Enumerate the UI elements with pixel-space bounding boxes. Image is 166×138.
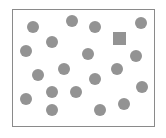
circle-shape	[66, 15, 78, 27]
circle-shape	[136, 81, 148, 93]
circle-shape	[58, 63, 70, 75]
circle-shape	[70, 86, 82, 98]
circle-shape	[89, 73, 101, 85]
circle-shape	[89, 21, 101, 33]
circle-shape	[20, 93, 32, 105]
circle-shape	[111, 63, 123, 75]
square-shape	[113, 32, 126, 45]
shapes-canvas	[0, 0, 166, 138]
circle-shape	[130, 50, 142, 62]
circle-shape	[46, 86, 58, 98]
circle-shape	[46, 104, 58, 116]
circle-shape	[32, 69, 44, 81]
circle-shape	[82, 48, 94, 60]
circle-shape	[135, 17, 147, 29]
circle-shape	[94, 104, 106, 116]
circle-shape	[20, 45, 32, 57]
circle-shape	[46, 36, 58, 48]
circle-shape	[118, 98, 130, 110]
circle-shape	[27, 21, 39, 33]
